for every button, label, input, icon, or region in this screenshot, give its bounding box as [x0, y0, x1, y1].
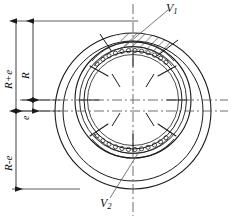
dimension-lines: [16, 21, 33, 189]
vane-2: [158, 66, 176, 76]
dimension-label-R-plus-e: R+e: [3, 70, 14, 89]
technical-drawing-canvas: R+e R e R-e V1 V2: [0, 0, 232, 220]
dimension-label-R: R: [20, 72, 31, 79]
dimension-label-e: e: [21, 116, 31, 120]
drawing-svg: [0, 0, 232, 220]
dimension-label-R-minus-e: R-e: [3, 156, 14, 171]
callout-label-v1: V1: [166, 2, 178, 16]
vane-4: [158, 124, 176, 136]
callout-label-v2: V2: [100, 197, 112, 211]
vane-6: [90, 124, 108, 136]
vane-8: [90, 66, 108, 76]
